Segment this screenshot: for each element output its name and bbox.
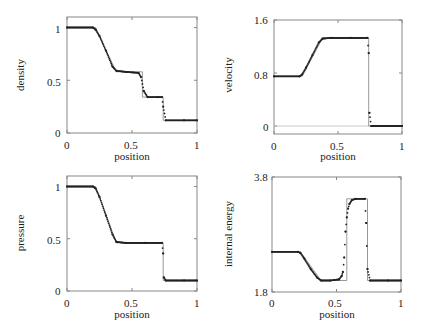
- data-point: [299, 75, 301, 77]
- data-point: [271, 251, 273, 253]
- data-point: [157, 96, 159, 98]
- figure-canvas: 1 0.5 0 0 0.5 1 position density 1.6 0.8…: [0, 0, 421, 334]
- data-point: [66, 185, 68, 187]
- pressure-xtick-1: 1: [194, 297, 200, 309]
- data-point: [183, 279, 185, 281]
- data-point: [341, 275, 343, 277]
- data-point: [115, 70, 117, 72]
- data-point: [343, 256, 345, 258]
- panel-internal-energy: 3.8 1.8 0 0.5 1 position internal energy: [222, 171, 404, 320]
- axes-frame: [67, 17, 197, 133]
- data-point: [331, 37, 333, 39]
- density-xtick-1: 1: [194, 139, 200, 151]
- data-point: [400, 279, 402, 281]
- data-point: [338, 278, 340, 280]
- panel-velocity: 1.6 0.8 0 0 0.5 1 position velocity: [222, 14, 405, 162]
- data-point: [346, 216, 348, 218]
- data-point: [124, 242, 126, 244]
- velocity-ytick-0: 0: [263, 121, 269, 133]
- data-point: [297, 251, 299, 253]
- data-point: [311, 54, 313, 56]
- data-point: [165, 119, 167, 121]
- density-ytick-1: 1: [55, 23, 61, 35]
- data-point: [364, 198, 366, 200]
- data-point: [162, 252, 164, 254]
- density-xlabel: position: [114, 150, 150, 162]
- data-point: [370, 125, 372, 127]
- pressure-xtick-0: 0: [64, 297, 70, 309]
- data-point: [368, 52, 370, 54]
- energy-xlabel: position: [319, 308, 355, 320]
- pressure-plot-area: [66, 176, 198, 291]
- data-point: [350, 37, 352, 39]
- data-point: [111, 233, 113, 235]
- velocity-xtick-1: 1: [399, 140, 405, 152]
- data-point: [310, 268, 312, 270]
- data-point: [344, 231, 346, 233]
- data-point: [366, 37, 368, 39]
- data-point: [368, 112, 370, 114]
- data-point: [366, 268, 368, 270]
- data-point: [183, 119, 185, 121]
- data-point: [342, 271, 344, 273]
- data-point: [369, 279, 371, 281]
- data-point: [144, 242, 146, 244]
- data-point: [95, 187, 97, 189]
- data-point: [66, 26, 68, 28]
- data-point: [140, 76, 142, 78]
- data-point: [303, 258, 305, 260]
- data-point: [147, 96, 149, 98]
- data-point: [318, 41, 320, 43]
- density-xtick-0: 0: [64, 139, 70, 151]
- data-point: [95, 29, 97, 31]
- velocity-ytick-08: 0.8: [254, 69, 268, 81]
- pressure-ylabel: pressure: [14, 215, 26, 252]
- data-point: [143, 90, 145, 92]
- data-point: [355, 198, 357, 200]
- energy-ylabel: internal energy: [222, 200, 234, 267]
- pressure-ytick-1: 1: [55, 181, 61, 193]
- data-point: [161, 96, 163, 98]
- panel-density: 1 0.5 0 0 0.5 1 position density: [14, 17, 200, 162]
- data-point: [124, 71, 126, 73]
- exact-solution-line: [272, 199, 401, 281]
- pressure-ytick-0: 0: [55, 285, 61, 297]
- pressure-ytick-05: 0.5: [47, 234, 61, 246]
- data-point: [165, 279, 167, 281]
- density-plot-area: [66, 17, 198, 133]
- data-point: [196, 119, 198, 121]
- energy-xtick-0: 0: [269, 297, 275, 309]
- data-point: [348, 203, 350, 205]
- data-point: [351, 199, 353, 201]
- data-point: [320, 279, 322, 281]
- data-point: [387, 279, 389, 281]
- data-point: [98, 196, 100, 198]
- density-ytick-05: 0.5: [47, 76, 61, 88]
- velocity-plot-area: [273, 20, 403, 134]
- velocity-xtick-0: 0: [271, 140, 277, 152]
- data-point: [111, 66, 113, 68]
- data-point: [401, 125, 403, 127]
- energy-plot-area: [271, 177, 402, 292]
- data-point: [347, 208, 349, 210]
- data-point: [115, 241, 117, 243]
- data-point: [163, 276, 165, 278]
- data-point: [92, 26, 94, 28]
- velocity-ylabel: velocity: [222, 57, 234, 93]
- data-point: [105, 50, 107, 52]
- data-point: [299, 252, 301, 254]
- data-point: [161, 242, 163, 244]
- data-point: [196, 279, 198, 281]
- axes-frame: [272, 177, 401, 292]
- velocity-xlabel: position: [320, 150, 356, 162]
- data-point: [305, 67, 307, 69]
- energy-ytick-18: 1.8: [254, 286, 268, 298]
- data-point: [301, 73, 303, 75]
- exact-solution-line: [274, 38, 402, 126]
- data-point: [388, 125, 390, 127]
- data-point: [137, 72, 139, 74]
- panel-pressure: 1 0.5 0 0 0.5 1 position pressure: [14, 176, 200, 320]
- exact-solution-line: [67, 28, 197, 121]
- pressure-xlabel: position: [114, 308, 150, 320]
- density-ytick-0: 0: [55, 127, 61, 139]
